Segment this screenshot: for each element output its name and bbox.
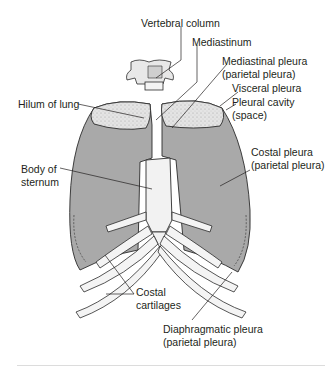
label-subtext: (parietal pleura): [251, 159, 325, 172]
label-costal-pleura: Costal pleura (parietal pleura): [251, 146, 325, 172]
label-text: Vertebral column: [141, 17, 220, 29]
label-subtext: (parietal pleura): [163, 336, 263, 349]
label-subtext: (parietal pleura): [222, 68, 307, 81]
label-text: Visceral pleura: [232, 82, 301, 94]
label-body-of-sternum: Body of sternum: [21, 163, 59, 189]
label-mediastinum: Mediastinum: [192, 36, 252, 49]
label-text: Diaphragmatic pleura: [163, 323, 263, 336]
label-diaphragmatic-pleura: Diaphragmatic pleura (parietal pleura): [163, 323, 263, 349]
divider: [17, 365, 325, 366]
label-text: Costal pleura: [251, 146, 325, 159]
label-hilum-of-lung: Hilum of lung: [18, 98, 79, 111]
label-subtext: cartilages: [136, 299, 181, 312]
pleura-diagram: Vertebral column Mediastinum Mediastinal…: [0, 0, 336, 369]
label-pleural-cavity: Pleural cavity (space): [232, 96, 294, 122]
label-subtext: (space): [232, 109, 294, 122]
label-text: Mediastinal pleura: [222, 55, 307, 68]
label-vertebral-column: Vertebral column: [141, 17, 220, 30]
label-text: Body of: [21, 163, 59, 176]
label-costal-cartilages: Costal cartilages: [136, 286, 181, 312]
label-visceral-pleura: Visceral pleura: [232, 82, 301, 95]
label-text: Mediastinum: [192, 36, 252, 48]
label-text: Hilum of lung: [18, 98, 79, 110]
label-text: Pleural cavity: [232, 96, 294, 109]
label-text: Costal: [136, 286, 181, 299]
vertebra-icon: [127, 60, 174, 90]
label-subtext: sternum: [21, 176, 59, 189]
label-mediastinal-pleura: Mediastinal pleura (parietal pleura): [222, 55, 307, 81]
